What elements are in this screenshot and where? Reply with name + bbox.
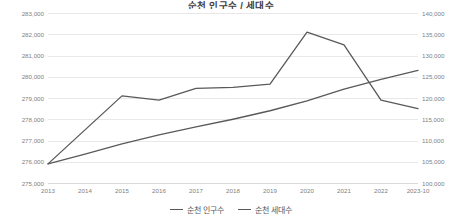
chart-title: 순천 인구수 / 세대수 [0,0,462,9]
y-axis-left-tick-label: 278,000 [4,116,44,123]
y-axis-left-tick-label: 282,000 [4,31,44,38]
x-axis-tick-label: 2016 [152,187,166,195]
y-axis-right-tick-label: 115,000 [422,116,462,123]
legend-item-households[interactable]: 순천 세대수 [238,204,292,215]
y-axis-right-tick-label: 100,000 [422,180,462,187]
chart-legend: 순천 인구수 순천 세대수 [0,204,462,215]
x-axis-tick-label: 2014 [78,187,92,195]
y-axis-right-tick-label: 135,000 [422,31,462,38]
y-axis-left-tick-label: 277,000 [4,137,44,144]
y-axis-left-tick-label: 281,000 [4,52,44,59]
x-axis-tick-label: 2022 [374,187,388,195]
x-axis-tick-label: 2023-10 [407,187,430,195]
x-axis-tick-label: 2013 [41,187,55,195]
x-axis-tick-label: 2018 [226,187,240,195]
x-axis-tick-label: 2015 [115,187,129,195]
y-axis-left-tick-label: 283,000 [4,10,44,17]
y-axis-right-tick-label: 105,000 [422,158,462,165]
legend-label-population: 순천 인구수 [187,204,224,215]
series-line [48,70,418,164]
chart-container: 순천 인구수 / 세대수 275,000276,000277,000278,00… [0,0,462,216]
legend-label-households: 순천 세대수 [255,204,292,215]
y-axis-right-tick-label: 110,000 [422,137,462,144]
y-axis-right-tick-label: 120,000 [422,95,462,102]
y-axis-right-tick-label: 125,000 [422,73,462,80]
legend-swatch-households [238,209,251,210]
y-axis-right-tick-label: 130,000 [422,52,462,59]
x-axis-tick-label: 2021 [337,187,351,195]
y-axis-left-tick-label: 280,000 [4,73,44,80]
series-lines [48,13,418,183]
x-axis-tick-label: 2017 [189,187,203,195]
y-axis-left-tick-label: 279,000 [4,95,44,102]
y-axis-right-tick-label: 140,000 [422,10,462,17]
series-line [48,32,418,164]
gridline [48,183,418,184]
y-axis-left-tick-label: 276,000 [4,158,44,165]
x-axis-tick-label: 2020 [300,187,314,195]
legend-swatch-population [170,209,183,210]
plot-area: 275,000276,000277,000278,000279,000280,0… [48,13,418,183]
y-axis-left-tick-label: 275,000 [4,180,44,187]
x-axis-tick-label: 2019 [263,187,277,195]
legend-item-population[interactable]: 순천 인구수 [170,204,224,215]
